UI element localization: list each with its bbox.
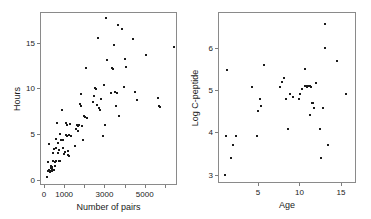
- data-point: [54, 165, 56, 167]
- data-point: [103, 84, 105, 86]
- data-point: [97, 37, 99, 39]
- data-point: [93, 95, 95, 97]
- data-point: [345, 93, 347, 95]
- data-point: [230, 157, 232, 159]
- data-point: [336, 60, 338, 62]
- data-point: [63, 153, 65, 155]
- data-point: [86, 117, 88, 119]
- x-tick-mark: [341, 183, 342, 186]
- y-tick-label: 15: [16, 38, 35, 47]
- x-tick-mark: [125, 185, 126, 188]
- data-point: [82, 139, 84, 141]
- data-point: [80, 105, 82, 107]
- data-point: [113, 44, 115, 46]
- data-point: [74, 145, 76, 147]
- data-point: [145, 54, 147, 56]
- y-tick-mark: [215, 48, 218, 49]
- data-point: [57, 152, 59, 154]
- data-point: [92, 101, 94, 103]
- data-point: [319, 128, 321, 130]
- data-points-left: [41, 13, 176, 184]
- data-point: [312, 102, 314, 104]
- data-point: [310, 86, 312, 88]
- y-tick-mark: [37, 43, 40, 44]
- data-point: [54, 161, 56, 163]
- data-point: [157, 97, 159, 99]
- x-tick-mark: [145, 185, 146, 188]
- data-point: [102, 135, 104, 137]
- data-point: [309, 114, 311, 116]
- scatter-panel-right: 510153456 Age Log C-peptide: [185, 0, 371, 219]
- data-point: [69, 123, 71, 125]
- y-axis-title-left: Hours: [12, 86, 22, 110]
- data-point: [251, 86, 253, 88]
- x-tick-label: 15: [337, 188, 346, 197]
- data-point: [292, 96, 294, 98]
- data-point: [53, 169, 55, 171]
- x-tick-mark: [258, 183, 259, 186]
- y-tick-mark: [37, 134, 40, 135]
- x-tick-label: 0: [42, 190, 46, 199]
- data-point: [327, 144, 329, 146]
- data-point: [289, 93, 291, 95]
- x-tick-label: 3000: [96, 190, 114, 199]
- data-point: [52, 152, 54, 154]
- y-tick-mark: [215, 175, 218, 176]
- figure-canvas: 0100030005000051015 Number of pairs Hour…: [0, 0, 371, 219]
- data-point: [136, 99, 138, 101]
- data-point: [115, 105, 117, 107]
- data-point: [62, 147, 64, 149]
- data-point: [80, 93, 82, 95]
- data-point: [320, 157, 322, 159]
- data-point: [59, 160, 61, 162]
- data-point: [225, 135, 227, 137]
- data-point: [55, 138, 57, 140]
- data-point: [51, 166, 53, 168]
- data-point: [70, 135, 72, 137]
- y-tick-label: 0: [16, 175, 35, 184]
- data-point: [118, 115, 120, 117]
- data-point: [99, 109, 101, 111]
- plot-frame-left: [40, 12, 177, 185]
- x-tick-label: 10: [295, 188, 304, 197]
- data-point: [134, 91, 136, 93]
- x-tick-mark: [44, 185, 45, 188]
- data-point: [110, 92, 112, 94]
- data-point: [48, 143, 50, 145]
- data-point: [259, 98, 261, 100]
- data-point: [279, 86, 281, 88]
- data-point: [224, 174, 226, 176]
- data-point: [68, 155, 70, 157]
- data-point: [226, 69, 228, 71]
- x-tick-mark: [84, 185, 85, 188]
- data-point: [100, 98, 102, 100]
- y-tick-mark: [37, 88, 40, 89]
- data-point: [159, 106, 161, 108]
- data-point: [315, 82, 317, 84]
- data-point: [299, 93, 301, 95]
- data-point: [173, 46, 175, 48]
- y-tick-mark: [215, 90, 218, 91]
- data-point: [260, 105, 262, 107]
- data-point: [301, 88, 303, 90]
- data-point: [96, 104, 98, 106]
- data-point: [59, 133, 61, 135]
- data-point: [322, 107, 324, 109]
- data-point: [235, 135, 237, 137]
- x-axis-title-right: Age: [279, 200, 295, 210]
- data-point: [287, 128, 289, 130]
- data-point: [58, 149, 60, 151]
- data-point: [51, 170, 53, 172]
- plot-frame-right: [218, 12, 356, 183]
- data-point: [67, 150, 69, 152]
- data-point: [125, 66, 127, 68]
- data-point: [47, 161, 49, 163]
- data-point: [81, 125, 83, 127]
- data-point: [121, 28, 123, 30]
- data-point: [77, 130, 79, 132]
- data-point: [78, 124, 80, 126]
- data-point: [62, 139, 64, 141]
- data-point: [256, 135, 258, 137]
- data-point: [304, 68, 306, 70]
- y-tick-label: 5: [16, 130, 35, 139]
